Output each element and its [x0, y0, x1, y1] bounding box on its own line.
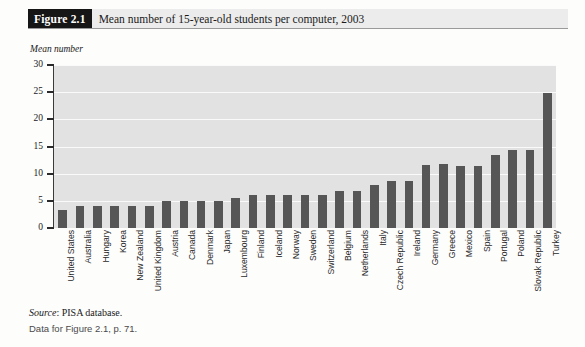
gridline	[54, 119, 556, 120]
y-axis-tick-label: 30	[34, 59, 44, 69]
x-axis-category-label: Slovak Republic	[533, 230, 543, 292]
bar	[422, 165, 431, 228]
bar	[387, 181, 396, 228]
bar	[543, 93, 552, 228]
x-axis-category-label: Germany	[430, 230, 440, 265]
source-label: Source	[29, 307, 56, 318]
bar	[318, 195, 327, 228]
x-axis-category-label: Czech Republic	[395, 230, 405, 290]
bar	[58, 210, 67, 228]
x-axis-category-label: Sweden	[308, 230, 318, 261]
x-axis-category-label: Switzerland	[326, 230, 336, 274]
bar	[214, 201, 223, 228]
x-axis-category-label: Belgium	[343, 230, 353, 261]
plot-area	[54, 65, 556, 228]
source-text: : PISA database.	[56, 307, 122, 318]
y-axis-tick-mark	[47, 173, 54, 175]
bar	[197, 201, 206, 228]
figure-number-tag: Figure 2.1	[28, 9, 92, 28]
y-axis-tick-mark	[47, 91, 54, 93]
gridline	[54, 92, 556, 93]
bar	[508, 150, 517, 228]
x-axis-category-label: Iceland	[274, 230, 284, 258]
bar	[180, 201, 189, 228]
x-axis-category-label: Norway	[291, 230, 301, 259]
x-axis-category-label: Australia	[83, 230, 93, 263]
x-axis-category-label: Poland	[516, 230, 526, 257]
x-axis-category-label: Canada	[187, 230, 197, 260]
bar	[456, 166, 465, 228]
gridline	[54, 65, 556, 66]
y-axis-tick-label: 5	[38, 195, 43, 205]
x-axis-category-label: Netherlands	[360, 230, 370, 276]
figure-page: Figure 2.1 Mean number of 15-year-old st…	[0, 0, 585, 347]
x-axis-category-label: Portugal	[499, 230, 509, 262]
x-axis-category-labels: United StatesAustraliaHungaryKoreaNew Ze…	[28, 230, 556, 308]
y-axis-tick-mark	[47, 146, 54, 148]
bar	[76, 206, 85, 228]
x-axis-category-label: Greece	[447, 230, 457, 258]
bar	[405, 181, 414, 228]
bar	[301, 195, 310, 228]
x-axis-category-label: United States	[66, 230, 76, 282]
bar	[370, 185, 379, 228]
x-axis-category-label: United Kingdom	[153, 230, 163, 291]
figure-header: Figure 2.1 Mean number of 15-year-old st…	[28, 9, 568, 29]
source-note: Source: PISA database.	[29, 307, 122, 318]
bar-chart: 051015202530	[28, 58, 556, 236]
x-axis-category-label: Korea	[118, 230, 128, 253]
bar	[491, 155, 500, 228]
bar	[353, 191, 362, 228]
data-reference-note: Data for Figure 2.1, p. 71.	[29, 323, 137, 334]
x-axis-category-label: Japan	[222, 230, 232, 253]
x-axis-category-label: Hungary	[101, 230, 111, 262]
bar	[335, 191, 344, 228]
bar	[231, 198, 240, 228]
bar	[266, 195, 275, 228]
bar	[249, 195, 258, 228]
bar	[128, 206, 137, 228]
y-axis-tick-label: 10	[34, 168, 44, 178]
x-axis-category-label: Ireland	[412, 230, 422, 256]
bar	[474, 166, 483, 228]
bar	[526, 150, 535, 228]
gridline	[54, 147, 556, 148]
bar	[93, 206, 102, 228]
y-axis-tick-mark	[47, 227, 54, 229]
figure-title: Mean number of 15-year-old students per …	[92, 9, 568, 28]
y-axis-tick-mark	[47, 64, 54, 66]
bar	[110, 206, 119, 228]
x-axis-category-label: Austria	[170, 230, 180, 257]
y-axis-tick-label: 15	[34, 141, 44, 151]
x-axis-category-label: Mexico	[464, 230, 474, 257]
bar	[439, 164, 448, 228]
x-axis-category-label: New Zealand	[135, 230, 145, 281]
x-axis-category-label: Finland	[256, 230, 266, 258]
x-axis-category-label: Denmark	[205, 230, 215, 265]
x-axis-category-label: Luxembourg	[239, 230, 249, 278]
y-axis-tick-label: 25	[34, 86, 44, 96]
y-axis-tick-mark	[47, 118, 54, 120]
y-axis-tick-label: 20	[34, 113, 44, 123]
y-axis-label: Mean number	[30, 44, 83, 54]
y-axis-tick-mark	[47, 200, 54, 202]
bar	[283, 195, 292, 228]
x-axis-category-label: Spain	[482, 230, 492, 252]
x-axis-category-label: Italy	[378, 230, 388, 246]
bar	[162, 201, 171, 228]
x-axis-category-label: Turkey	[551, 230, 561, 256]
bar	[145, 206, 154, 228]
